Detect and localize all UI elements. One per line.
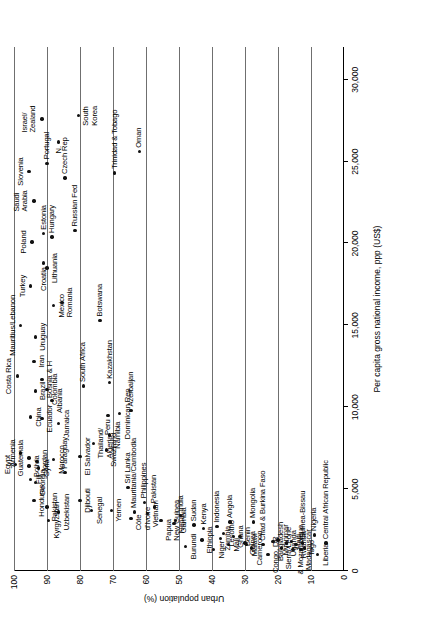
data-point-label: Lithuania: [51, 253, 59, 283]
data-point: [82, 384, 85, 387]
data-point: [45, 266, 48, 269]
y-tick-label: 80: [75, 575, 85, 584]
data-point: [228, 520, 231, 523]
x-tick-mark: [344, 488, 348, 489]
data-point: [290, 540, 293, 543]
data-point-label: Chad & Burkina Faso: [259, 471, 267, 541]
data-point: [45, 162, 48, 165]
data-point-label: Russian Fed: [71, 185, 79, 227]
data-point: [32, 199, 35, 202]
data-point-label: Saudi Arabia: [13, 190, 30, 211]
data-point: [78, 455, 81, 458]
data-point-label: Costa Rica: [5, 358, 13, 394]
data-point: [316, 553, 319, 556]
data-point: [143, 501, 146, 504]
data-point-label: Burundi: [190, 534, 198, 559]
data-point-label: Slovenia: [16, 157, 24, 185]
data-point-label: Mauritania/Cambodia: [130, 438, 138, 508]
x-axis-title: Per capita gross national income, ppp (U…: [372, 47, 382, 571]
data-point: [42, 261, 45, 264]
data-point: [16, 374, 19, 377]
data-point: [63, 176, 66, 179]
data-point: [50, 235, 53, 238]
x-tick-mark: [344, 243, 348, 244]
x-tick-label: 25,000: [350, 149, 360, 175]
data-point: [29, 478, 32, 481]
data-point-label: Mongolia: [249, 488, 257, 518]
data-point: [30, 240, 33, 243]
data-point: [45, 505, 48, 508]
data-point: [73, 229, 76, 232]
data-point: [40, 417, 43, 420]
data-point: [261, 543, 264, 546]
data-point: [29, 284, 32, 287]
data-point-label: Pakistan: [150, 475, 158, 503]
data-point-label: Kyrgyzstan: [53, 502, 61, 539]
x-tick-mark: [344, 161, 348, 162]
data-point-label: Czech Rep: [61, 137, 69, 174]
x-tick-label: 0: [350, 569, 360, 574]
data-point-label: Liberia: [322, 544, 330, 566]
data-point: [32, 360, 35, 363]
data-point-label: Kenya: [200, 503, 208, 524]
data-point: [266, 553, 269, 556]
data-point: [113, 171, 116, 174]
data-point: [52, 304, 55, 307]
gridline: [245, 47, 246, 571]
y-tick-label: 0: [339, 575, 349, 580]
data-point: [252, 520, 255, 523]
data-point-label: Hungary: [48, 205, 56, 233]
gridline: [311, 47, 312, 571]
data-point-label: Kazakhstan: [105, 340, 113, 379]
data-point: [313, 533, 316, 536]
data-point-label: Nigeria: [310, 508, 318, 531]
y-axis-title: Urban population (%): [94, 594, 274, 604]
data-point-label: Angola: [226, 495, 234, 518]
data-point-label: Guatemala: [16, 440, 24, 476]
y-tick-label: 90: [42, 575, 52, 584]
data-point: [219, 537, 222, 540]
data-point-label: Trinidad & Tobago: [110, 110, 118, 170]
y-tick-label: 10: [306, 575, 316, 584]
data-point: [42, 232, 45, 235]
data-point: [215, 525, 218, 528]
data-point: [129, 409, 132, 412]
data-point-label: Botswana: [96, 284, 104, 317]
data-point: [60, 301, 63, 304]
plot-area: 0102030405060708090100 05,00010,00015,00…: [14, 47, 344, 571]
data-point: [34, 335, 37, 338]
data-point: [34, 389, 37, 392]
y-tick-label: 70: [108, 575, 118, 584]
x-axis-line: [343, 47, 344, 571]
data-point: [153, 505, 156, 508]
data-point-label: Senegal: [96, 497, 104, 524]
data-point-label: Côte d'Ivoire: [135, 507, 152, 530]
data-point-label: Philippines: [140, 463, 148, 499]
x-tick-label: 15,000: [350, 312, 360, 338]
data-point-label: Egypt: [3, 455, 11, 474]
data-point-label: Central African Republic: [322, 460, 330, 539]
data-point-label: South Africa: [79, 342, 87, 382]
data-point: [200, 538, 203, 541]
y-tick-label: 60: [141, 575, 151, 584]
data-point-label: Paraguay: [61, 437, 69, 469]
data-point: [27, 456, 30, 459]
x-tick-label: 5,000: [350, 478, 360, 499]
y-tick-label: 100: [9, 575, 19, 589]
data-point: [29, 415, 32, 418]
rotated-figure-wrapper: 0102030405060708090100 05,00010,00015,00…: [0, 0, 439, 629]
data-point: [27, 465, 30, 468]
data-point: [118, 412, 121, 415]
data-point-label: Indonesia: [213, 491, 221, 523]
data-point: [250, 546, 253, 549]
data-point-label: Jamaica: [63, 410, 71, 438]
data-point: [78, 499, 81, 502]
x-tick-mark: [344, 324, 348, 325]
data-point-label: Romania: [66, 288, 74, 318]
data-point-label: Guinea-Bissau: [299, 491, 307, 540]
data-point: [27, 170, 30, 173]
data-point: [192, 523, 195, 526]
y-tick-label: 20: [273, 575, 283, 584]
data-point: [303, 546, 306, 549]
data-point-label: Ecuador: [46, 405, 54, 433]
